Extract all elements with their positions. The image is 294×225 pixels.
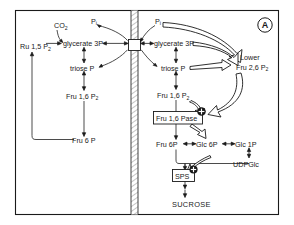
panel-letter-text: A (262, 20, 269, 30)
label-glycerate3p-right: glycerate 3P (154, 39, 194, 48)
label-triosep-left: triose P (70, 64, 95, 73)
label-ru15p2: Ru 1,5 P2 (20, 42, 51, 52)
label-triosep-right: triose P (161, 64, 186, 73)
label-fru6p-right: Fru 6P (156, 140, 178, 149)
diagram-border (16, 11, 279, 215)
label-glc1p: Glc 1P (235, 140, 257, 149)
label-sucrose: SUCROSE (172, 200, 211, 209)
label-fru16pase: Fru 1,6 Pase (156, 114, 197, 123)
phosphate-translocator (129, 40, 141, 51)
pathway-diagram-figure: A Ru 1,5 P2 CO2 Pi glycerate 3P triose P… (0, 0, 294, 225)
activation-node-fru16pase (197, 107, 206, 116)
label-glycerate3p-left: glycerate 3P (63, 39, 103, 48)
label-udpglc: UDPGlc (233, 160, 259, 169)
label-fru6p-left: Fru 6 P (72, 136, 96, 145)
label-fru16p2-right: Fru 1,6 P2 (157, 91, 190, 101)
label-sps: SPS (175, 172, 190, 181)
label-fru26p2: Fru 2,6 P2 (236, 63, 269, 73)
label-glc6p: Glc 6P (196, 140, 218, 149)
panel-letter-badge: A (258, 18, 272, 32)
label-fru16p2-left: Fru 1,6 P2 (66, 92, 99, 102)
label-lower: Lower (240, 53, 260, 62)
activation-node-sps (189, 165, 197, 173)
